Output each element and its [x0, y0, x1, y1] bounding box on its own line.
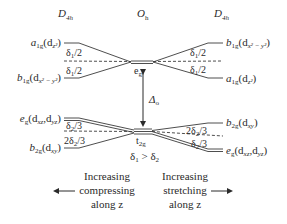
b2g-dxy-label-left: b2g(dxy) — [29, 141, 61, 155]
delta1-half-bottom-left: δ1/2 — [66, 65, 82, 78]
correlation-line — [79, 62, 131, 78]
two-delta2-third-label-left: 2δ2/3 — [64, 135, 85, 148]
correlation-line — [79, 118, 134, 130]
stretch-text-line2: stretching — [163, 184, 207, 196]
a1g-dz2-label-right: a1g(dz²) — [226, 72, 257, 86]
b1g-dx2y2-label-right: b1g(dx² − y²) — [226, 36, 270, 50]
barycenter-dashed-line — [153, 61, 223, 62]
header: D4h Oh D4h — [57, 7, 229, 22]
center-point-group-label: Oh — [137, 7, 149, 22]
b1g-dx2y2-label-left: b1g(dx² − y²) — [17, 71, 61, 85]
a1g-dz2-label-left: a1g(dz²) — [31, 36, 62, 50]
barycenter-dashed-line — [64, 131, 134, 132]
t2g-label: t2g — [136, 135, 146, 148]
barycenter-dashed-line — [64, 61, 131, 62]
two-delta2-third-label-right: 2δ2/3 — [186, 125, 207, 138]
eg-dxz-dyz-label-left: eg(dxz,dyz) — [20, 112, 62, 126]
left-point-group-label: D4h — [57, 7, 73, 22]
delta1-half-top-left: δ1/2 — [66, 47, 82, 60]
eg-dxz-dyz-label-right: eg(dxz,dyz) — [226, 144, 268, 158]
b2g-dxy-label-right: b2g(dxy) — [226, 116, 258, 130]
compress-text-line3: along z — [91, 198, 123, 210]
eg-label: eg — [134, 65, 142, 78]
correlation-line — [79, 43, 131, 62]
stretch-text-line1: Increasing — [162, 170, 208, 182]
delta1-half-top-right: δ1/2 — [190, 47, 206, 60]
stretch-text-line3: along z — [169, 198, 201, 210]
compress-text-line2: compressing — [79, 184, 135, 196]
splitting-condition: δ1 > δ2 — [130, 150, 160, 164]
footer: Increasing compressing along z Increasin… — [56, 170, 230, 210]
correlation-line — [79, 121, 134, 133]
correlation-line — [79, 133, 134, 148]
delta-o-label: Δo — [148, 93, 159, 107]
right-point-group-label: D4h — [213, 7, 229, 22]
d-orbital-splitting-diagram: D4h Oh D4h eg a1g(dz²) b1g(dx² − y²) δ1/… — [0, 0, 287, 224]
compress-text-line1: Increasing — [84, 170, 130, 182]
delta2-third-label-right: δ2/3 — [191, 138, 207, 151]
delta1-half-bottom-right: δ1/2 — [190, 64, 206, 77]
